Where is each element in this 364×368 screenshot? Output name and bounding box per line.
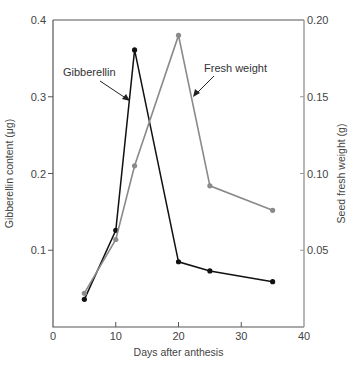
data-point <box>176 259 181 264</box>
data-point <box>132 163 137 168</box>
y-axis-title: Gibberellin content (μg) <box>3 119 15 228</box>
annotation-fresh-weight: Fresh weight <box>204 62 267 74</box>
data-point <box>82 297 87 302</box>
x-tick-label: 20 <box>172 330 184 342</box>
data-point <box>176 33 181 38</box>
arrow-head-icon <box>122 94 130 101</box>
y2-tick-label: 0.20 <box>307 14 328 26</box>
data-point <box>270 208 275 213</box>
data-point <box>207 268 212 273</box>
y2-tick-label: 0.15 <box>307 91 328 103</box>
y2-tick-label: 0.05 <box>307 244 328 256</box>
x-tick-label: 0 <box>50 330 56 342</box>
x-tick-label: 40 <box>298 330 310 342</box>
x-tick-label: 30 <box>235 330 247 342</box>
y-tick-label: 0.2 <box>31 168 46 180</box>
annotation-arrow-line <box>100 81 127 99</box>
y-tick-label: 0.3 <box>31 91 46 103</box>
x-axis-title: Days after anthesis <box>134 346 224 358</box>
data-point <box>132 47 137 52</box>
data-point <box>113 237 118 242</box>
data-point <box>82 291 87 296</box>
annotation-arrow-line <box>196 76 214 94</box>
y2-tick-label: 0.10 <box>307 168 328 180</box>
x-tick-label: 10 <box>110 330 122 342</box>
y-tick-label: 0.4 <box>31 14 46 26</box>
chart: 0102030400.10.20.30.40.050.100.150.20Day… <box>0 0 364 368</box>
labels-group: 0102030400.10.20.30.40.050.100.150.20Day… <box>3 14 347 358</box>
data-point <box>207 183 212 188</box>
y-tick-label: 0.1 <box>31 244 46 256</box>
data-point <box>270 279 275 284</box>
arrow-head-icon <box>193 89 200 97</box>
annotation-gibberellin: Gibberellin <box>63 66 116 78</box>
y2-axis-title: Seed fresh weight (g) <box>335 124 347 224</box>
